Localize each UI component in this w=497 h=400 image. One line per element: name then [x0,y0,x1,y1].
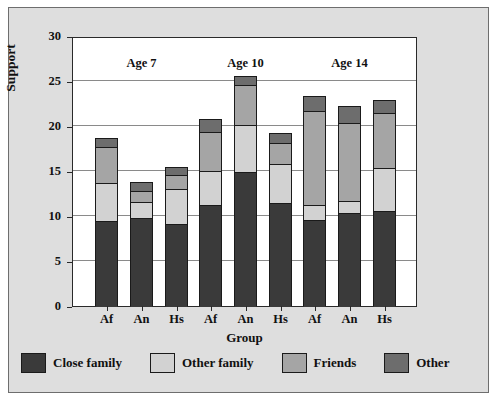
y-axis-label: Support [3,8,19,128]
legend-swatch-icon [21,353,46,373]
x-tick-mark [246,306,247,311]
y-tick-label: 0 [15,300,61,313]
bar-segment-friends [96,147,117,183]
group-title-age-10: Age 10 [201,56,291,71]
bar-segment-other-family [166,189,187,224]
legend-item-friends[interactable]: Friends [282,353,357,373]
bar-segment-other [96,139,117,147]
stacked-bar[interactable] [165,167,188,307]
bar-segment-close-family [270,203,291,307]
bar-segment-other-family [304,205,325,219]
x-axis-label: Group [72,330,417,346]
stacked-bar[interactable] [373,100,396,306]
bar-segment-other-family [270,164,291,203]
stacked-bar[interactable] [95,138,118,306]
stacked-bar[interactable] [338,106,361,306]
legend-label: Other family [182,355,254,371]
legend-item-other[interactable]: Other [384,353,449,373]
bar-segment-friends [166,175,187,189]
y-tick-label: 30 [15,30,61,43]
x-tick-mark [107,306,108,311]
y-tick-label: 20 [15,120,61,133]
bar-segment-close-family [339,213,360,307]
bar-segment-friends [270,143,291,164]
stacked-bar[interactable] [269,133,292,306]
x-tick-mark [211,306,212,311]
figure-panel: Support 051015202530 Age 7Age 10Age 14 A… [8,7,489,393]
x-tick-mark [142,306,143,311]
y-tick-label: 15 [15,165,61,178]
stacked-bar[interactable] [234,76,257,306]
bar-segment-close-family [200,205,221,307]
bar-segment-friends [131,191,152,202]
legend-item-other-family[interactable]: Other family [150,353,254,373]
bar-segment-other [235,77,256,85]
bar-segment-other-family [200,171,221,205]
bar-segment-close-family [304,220,325,307]
x-tick-label-hs: Hs [365,312,405,327]
x-tick-mark [315,306,316,311]
bar-segment-friends [304,111,325,206]
x-tick-label-af: Af [191,312,231,327]
bar-segment-close-family [166,224,187,307]
x-tick-label-an: An [226,312,266,327]
y-tick-label: 5 [15,255,61,268]
bar-segment-friends [374,113,395,169]
bar-segment-other [270,134,291,143]
bar-segment-other [374,101,395,113]
bar-segment-other-family [374,168,395,210]
bar-segment-close-family [131,218,152,307]
bar-segment-other [166,168,187,175]
x-tick-mark [281,306,282,311]
legend-swatch-icon [384,353,409,373]
bar-segment-other [131,183,152,191]
plot-area: Age 7Age 10Age 14 AfAnHsAfAnHsAfAnHs [72,37,417,307]
bar-segment-close-family [374,211,395,307]
bar-segment-friends [200,132,221,171]
bar-segment-other [304,97,325,111]
x-tick-label-af: Af [87,312,127,327]
group-title-age-14: Age 14 [305,56,395,71]
x-tick-mark [385,306,386,311]
bar-segment-other [339,107,360,123]
y-tick-label: 10 [15,210,61,223]
legend-label: Friends [314,355,357,371]
bar-segment-close-family [235,172,256,307]
stacked-bar[interactable] [303,96,326,306]
bar-segment-other [200,120,221,133]
y-tick-mark [67,307,72,308]
bar-segment-other-family [96,183,117,221]
legend-label: Other [416,355,449,371]
stacked-bar[interactable] [130,182,153,306]
legend-label: Close family [53,355,122,371]
legend-item-close-family[interactable]: Close family [21,353,122,373]
bar-segment-other-family [235,125,256,172]
x-tick-mark [350,306,351,311]
chart-legend: Close familyOther familyFriendsOther [21,346,476,379]
y-tick-label: 25 [15,75,61,88]
x-tick-label-af: Af [295,312,335,327]
bar-segment-friends [235,85,256,126]
x-tick-label-an: An [122,312,162,327]
group-title-age-7: Age 7 [97,56,187,71]
stacked-bar[interactable] [199,119,222,306]
bar-segment-friends [339,123,360,200]
x-tick-mark [177,306,178,311]
bar-segment-other-family [131,202,152,218]
legend-swatch-icon [282,353,307,373]
bar-segment-other-family [339,201,360,214]
x-tick-label-an: An [330,312,370,327]
legend-swatch-icon [150,353,175,373]
bar-segment-close-family [96,221,117,307]
